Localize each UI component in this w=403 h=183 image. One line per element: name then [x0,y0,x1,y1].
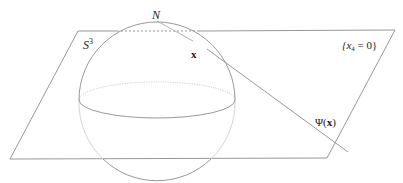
plane-label-var: {x [342,39,351,51]
plane-edge-bottom [10,158,327,159]
equator-front-arc [79,100,235,118]
sphere-label: S3 [83,37,93,52]
plane-edge-left [10,31,78,159]
north-pole-label: N [151,8,161,22]
sphere-upper-outline [79,22,235,100]
image-label-prefix: Ψ( [315,116,327,129]
sphere-label-exponent: 3 [89,37,93,46]
sphere-lower-hidden-outline [79,100,103,159]
sphere-lower-hidden-outline-right [211,100,235,159]
plane-label-rest: = 0} [355,39,377,51]
plane-label: {x4 = 0} [342,39,377,53]
image-label-suffix: ) [332,116,336,129]
projection-ray-outer [207,49,348,152]
point-x-label: x [191,48,197,60]
plane-edge-top-right [197,30,395,31]
sphere-bottom-outline [103,159,211,181]
stereographic-projection-diagram: N S3 x {x4 = 0} Ψ(x) [0,0,403,183]
equator-back-arc [79,82,235,100]
image-point-label: Ψ(x) [315,116,336,129]
